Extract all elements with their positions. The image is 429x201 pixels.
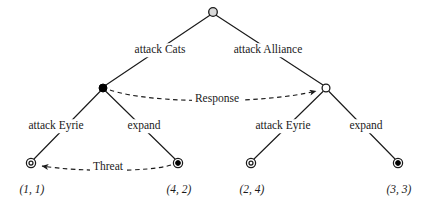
terminal-node-t4 (393, 158, 402, 167)
terminal-node-t2 (173, 158, 182, 167)
game-tree-diagram: attack Cats attack Alliance attack Eyrie… (0, 0, 429, 201)
edge-label-right-expand: expand (347, 119, 384, 133)
edge-label-right-attack-eyrie: attack Eyrie (253, 119, 312, 133)
node-root (209, 8, 218, 17)
annotation-label-response: Response (192, 92, 242, 106)
payoff-label-t2: (4, 2) (166, 184, 193, 196)
payoff-label-t4: (3, 3) (386, 184, 413, 196)
edge-label-attack-alliance: attack Alliance (232, 43, 305, 57)
edge-label-attack-cats: attack Cats (133, 43, 188, 57)
node-right-player (322, 84, 330, 92)
edge-label-left-expand: expand (125, 119, 162, 133)
edge-label-left-attack-eyrie: attack Eyrie (26, 119, 85, 133)
payoff-label-t1: (1, 1) (19, 184, 46, 196)
payoff-label-t3: (2, 4) (239, 184, 266, 196)
annotation-label-threat: Threat (90, 160, 126, 174)
terminal-node-t3 (246, 158, 255, 167)
terminal-node-t1 (26, 158, 35, 167)
node-left-player (99, 84, 107, 92)
